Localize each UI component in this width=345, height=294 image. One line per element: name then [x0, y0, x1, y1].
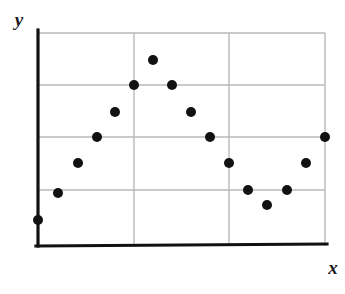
data-point-marker: [110, 107, 120, 117]
vertical-gridlines: [134, 33, 229, 246]
scatter-plot-figure: y x: [0, 0, 345, 294]
plot-canvas: y x: [0, 0, 345, 294]
data-point-marker: [320, 132, 330, 142]
data-point-marker: [129, 80, 139, 90]
data-point-marker: [167, 80, 177, 90]
data-point-marker: [205, 132, 215, 142]
data-point-marker: [73, 158, 83, 168]
data-point-marker: [224, 158, 234, 168]
data-point-marker: [53, 188, 63, 198]
data-point-marker: [243, 185, 253, 195]
x-axis-line: [36, 244, 327, 246]
data-point-marker: [301, 158, 311, 168]
y-axis-label: y: [13, 9, 24, 30]
axes: [36, 30, 327, 246]
data-point-marker: [33, 215, 43, 225]
data-point-marker: [148, 55, 158, 65]
data-point-marker: [92, 132, 102, 142]
plot-frame: [38, 33, 325, 246]
data-point-group: [33, 55, 330, 225]
x-axis-label: x: [327, 257, 338, 278]
data-point-marker: [262, 200, 272, 210]
horizontal-gridlines: [38, 85, 325, 190]
data-point-marker: [282, 185, 292, 195]
data-point-marker: [186, 107, 196, 117]
